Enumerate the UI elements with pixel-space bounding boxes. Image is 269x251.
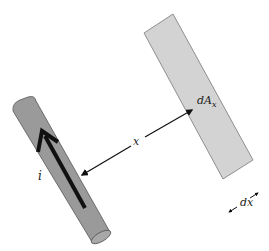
width-label: dx (240, 196, 254, 209)
distance-label: x (133, 135, 140, 148)
area-label-main: dA (197, 94, 212, 107)
diagram-canvas: i x dAx dx (0, 0, 269, 251)
area-label-subscript: x (212, 100, 217, 109)
current-label: i (38, 169, 42, 183)
